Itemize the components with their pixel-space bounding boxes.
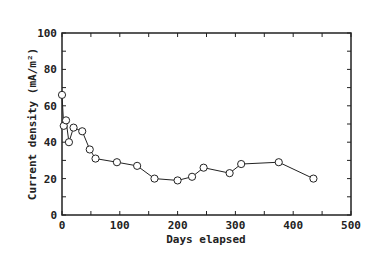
y-axis-title: Current density (mA/m²) — [26, 48, 39, 200]
y-axis: 020406080100 — [37, 27, 351, 222]
data-point — [310, 175, 317, 182]
data-point — [70, 124, 77, 131]
y-tick-label: 80 — [44, 63, 57, 76]
data-point — [113, 159, 120, 166]
data-point — [275, 159, 282, 166]
data-point — [226, 170, 233, 177]
x-tick-label: 300 — [225, 219, 245, 232]
x-tick-label: 200 — [168, 219, 188, 232]
data-point — [65, 139, 72, 146]
x-tick-label: 500 — [341, 219, 361, 232]
x-tick-label: 400 — [283, 219, 303, 232]
data-point — [86, 146, 93, 153]
data-point — [188, 173, 195, 180]
x-tick-label: 100 — [110, 219, 130, 232]
data-point — [134, 162, 141, 169]
y-tick-label: 40 — [44, 136, 57, 149]
x-axis: 0100200300400500 — [59, 33, 361, 232]
data-point — [151, 175, 158, 182]
data-point — [58, 91, 65, 98]
chart: 0100200300400500 020406080100 Days elaps… — [0, 0, 384, 258]
data-point — [238, 160, 245, 167]
y-tick-label: 0 — [50, 209, 57, 222]
data-point — [62, 117, 69, 124]
data-point — [174, 177, 181, 184]
x-tick-label: 0 — [59, 219, 66, 232]
plot-frame — [62, 33, 351, 215]
data-point — [92, 155, 99, 162]
y-tick-label: 20 — [44, 173, 57, 186]
x-axis-title: Days elapsed — [166, 233, 245, 246]
y-tick-label: 60 — [44, 100, 57, 113]
data-series — [58, 91, 317, 184]
data-point — [79, 128, 86, 135]
data-point — [200, 164, 207, 171]
y-tick-label: 100 — [37, 27, 57, 40]
